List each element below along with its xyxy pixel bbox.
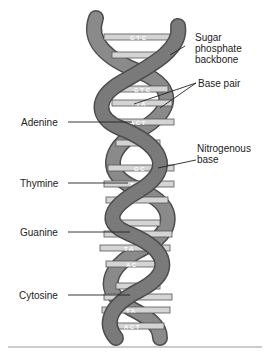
label-adenine: Adenine: [21, 117, 58, 128]
base-pair-label: G C: [134, 166, 145, 172]
base-pair-label: A C T: [124, 324, 140, 330]
label-cytosine: Cytosine: [19, 290, 58, 301]
base-pair-label: T A: [126, 308, 136, 314]
label-guanine: Guanine: [20, 227, 58, 238]
base-pair-label: G T C: [134, 87, 151, 93]
label-base-pair: Base pair: [198, 78, 240, 89]
label-sugar-phosphate-backbone: Sugar phosphate backbone: [195, 32, 242, 65]
label-thymine: Thymine: [20, 178, 58, 189]
label-nitrogenous-base: Nitrogenous base: [197, 143, 251, 165]
base-pair-label: A C T: [130, 120, 146, 126]
base-pair-label: T A: [124, 246, 134, 252]
base-pair-label: A C: [126, 262, 137, 268]
base-pair-label: G T C: [130, 35, 147, 41]
